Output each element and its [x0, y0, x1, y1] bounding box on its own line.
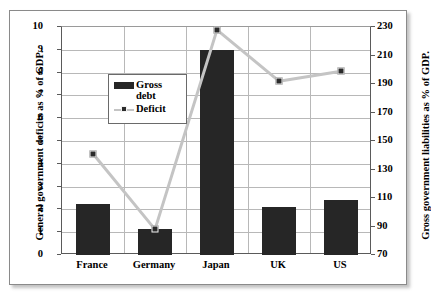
left-tick-label: 2: [17, 203, 43, 214]
right-tick-label: 150: [377, 135, 407, 146]
plot-area: Gross debt Deficit: [61, 26, 371, 254]
legend-label-line1: Gross: [136, 79, 162, 90]
data-point-marker: [214, 26, 221, 33]
left-tick-label: 3: [17, 180, 43, 191]
legend-bar-swatch-icon: [113, 79, 136, 95]
left-tick-label: 9: [17, 44, 43, 55]
x-tick-label: UK: [270, 259, 286, 270]
right-tick-label: 110: [377, 192, 407, 203]
left-tick-label: 1: [17, 226, 43, 237]
left-tick-label: 7: [17, 89, 43, 100]
data-point-marker: [276, 78, 283, 85]
right-tick-label: 170: [377, 106, 407, 117]
legend-label-gross-debt: Gross debt: [136, 79, 162, 101]
left-tick-label: 4: [17, 158, 43, 169]
legend-label-deficit: Deficit: [136, 103, 166, 114]
data-point-marker: [338, 68, 345, 75]
right-tick-label: 90: [377, 220, 407, 231]
right-tick-label: 190: [377, 78, 407, 89]
left-tick-label: 10: [17, 21, 43, 32]
x-tick-label: US: [333, 259, 346, 270]
left-tick-label: 6: [17, 112, 43, 123]
x-tick-label: Japan: [202, 259, 229, 270]
right-tick-label: 70: [377, 249, 407, 260]
left-tick-mark: [57, 254, 61, 255]
left-tick-label: 5: [17, 135, 43, 146]
right-tick-label: 230: [377, 21, 407, 32]
legend-label-line2: debt: [136, 90, 156, 101]
chart-legend: Gross debt Deficit: [108, 74, 187, 124]
data-point-marker: [152, 226, 159, 233]
x-tick-label: France: [76, 259, 108, 270]
left-tick-label: 0: [17, 249, 43, 260]
x-tick-label: Germany: [133, 259, 176, 270]
chart-figure: General government deficits as % of GDP.…: [9, 10, 407, 285]
legend-item-deficit: Deficit: [113, 103, 181, 119]
legend-line-swatch-icon: [113, 103, 136, 119]
left-tick-label: 8: [17, 66, 43, 77]
right-axis-title: Gross government liabilities as % of GDP…: [420, 31, 431, 261]
line-series-deficit: [62, 27, 372, 255]
legend-item-gross-debt: Gross debt: [113, 79, 181, 101]
right-tick-label: 130: [377, 163, 407, 174]
right-tick-label: 210: [377, 49, 407, 60]
data-point-marker: [90, 150, 97, 157]
